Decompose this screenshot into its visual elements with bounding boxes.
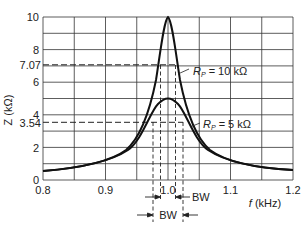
label-rp5: RP= 5 kΩ	[203, 118, 251, 131]
svg-text:0.9: 0.9	[98, 184, 113, 196]
svg-text:2: 2	[33, 142, 39, 154]
label-rp10: RP= 10 kΩ	[193, 65, 247, 78]
svg-text:1.0: 1.0	[160, 184, 175, 196]
svg-text:1.1: 1.1	[223, 184, 238, 196]
svg-text:0.8: 0.8	[35, 184, 50, 196]
y-axis-title: Z (kΩ)	[2, 95, 14, 126]
half-power-lines	[43, 65, 183, 123]
y-tick-labels: 0 2 4 6 8 10 7.07 3.54	[20, 11, 41, 186]
x-axis-title: f (kHz)	[249, 197, 281, 209]
pointer-rp5	[190, 123, 200, 127]
resonance-chart: RP= 10 kΩ RP= 5 kΩ 0 2 4 6 8 10 7.07 3.5…	[0, 0, 306, 230]
x-tick-labels: 0.8 0.9 1.0 1.1 1.2	[35, 184, 300, 196]
svg-text:10: 10	[27, 11, 39, 23]
svg-text:1.2: 1.2	[285, 184, 300, 196]
svg-text:6: 6	[33, 76, 39, 88]
bw-narrow-label: BW	[192, 191, 210, 203]
svg-text:8: 8	[33, 44, 39, 56]
svg-text:3.54: 3.54	[20, 117, 41, 129]
bw-wide-label: BW	[159, 209, 177, 221]
svg-text:7.07: 7.07	[20, 59, 41, 71]
